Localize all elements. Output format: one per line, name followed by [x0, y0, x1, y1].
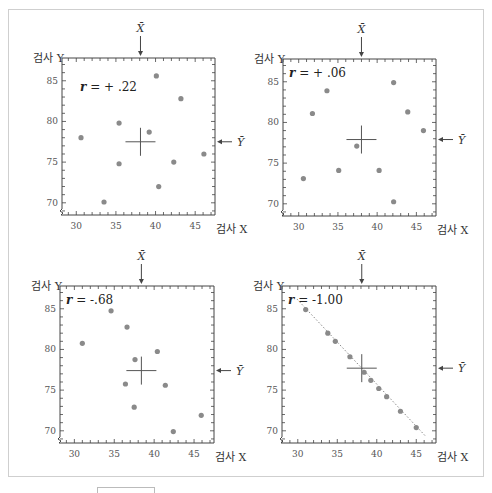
data-point [101, 199, 106, 204]
data-point [303, 307, 308, 312]
data-point [310, 111, 315, 116]
mean-x-label: X̄ [357, 250, 367, 263]
data-point [405, 109, 410, 114]
y-axis-title: 검사 Y [253, 280, 284, 293]
data-point [108, 308, 113, 313]
y-tick-label: 80 [267, 344, 279, 354]
axes-frame [58, 286, 214, 443]
x-axis-title: 검사 X [216, 223, 247, 236]
y-axis-title: 검사 Y [33, 52, 64, 65]
y-axis-title: 검사 Y [31, 280, 62, 293]
y-tick-label: 85 [45, 304, 57, 314]
data-point [123, 381, 128, 386]
data-point [156, 184, 161, 189]
data-point [377, 168, 382, 173]
mean-x-label: X̄ [136, 22, 146, 35]
data-point [325, 331, 330, 336]
data-point [155, 349, 160, 354]
mean-x-label: X̄ [357, 23, 367, 36]
data-point [414, 425, 419, 430]
arrow-left-icon [216, 368, 221, 373]
x-tick-label: 45 [188, 449, 200, 459]
x-tick-label: 30 [292, 449, 304, 459]
data-point [132, 357, 137, 362]
data-point [116, 161, 121, 166]
data-point [178, 96, 183, 101]
data-point [171, 160, 176, 165]
x-tick-label: 40 [150, 221, 162, 231]
y-tick-label: 75 [267, 385, 279, 395]
correlation-label: r = -1.00 [288, 293, 343, 307]
mean-y-label: Ȳ [458, 362, 467, 375]
mean-y-label: Ȳ [458, 134, 467, 147]
arrow-down-icon [359, 279, 364, 284]
mean-y-label: Ȳ [236, 365, 245, 378]
axes-frame [281, 59, 436, 216]
mean-y-label: Ȳ [237, 136, 246, 149]
x-tick-label: 30 [293, 222, 305, 232]
x-axis-title: 검사 X [437, 451, 468, 464]
x-tick-label: 45 [411, 222, 423, 232]
y-tick-label: 75 [268, 158, 280, 168]
scatter-panel-1: 3035404570758085검사 Y검사 XX̄Ȳr = + .22 [33, 22, 247, 236]
data-point [336, 168, 341, 173]
data-point [124, 324, 129, 329]
data-point [199, 413, 204, 418]
data-point [333, 339, 338, 344]
data-point [116, 120, 121, 125]
data-point [354, 143, 359, 148]
data-point [398, 409, 403, 414]
data-point [80, 341, 85, 346]
data-point [368, 378, 373, 383]
data-point [147, 129, 152, 134]
y-tick-label: 70 [268, 199, 280, 209]
x-axis-title: 검사 X [437, 224, 468, 237]
correlation-label: r = + .22 [80, 80, 137, 94]
data-point [347, 354, 352, 359]
y-tick-label: 70 [45, 426, 57, 436]
x-tick-label: 35 [332, 449, 344, 459]
scatter-panel-4: 3035404570758085검사 Y검사 XX̄Ȳr = -1.00 [253, 250, 468, 464]
x-axis-title: 검사 X [215, 451, 246, 464]
x-tick-label: 30 [71, 221, 83, 231]
data-point [154, 73, 159, 78]
y-tick-label: 85 [268, 77, 280, 87]
x-tick-label: 40 [148, 449, 160, 459]
y-tick-label: 80 [268, 117, 280, 127]
data-point [362, 370, 367, 375]
data-point [201, 151, 206, 156]
arrow-down-icon [138, 51, 143, 56]
correlation-label: r = -.68 [66, 293, 113, 307]
x-tick-label: 40 [371, 449, 383, 459]
y-tick-label: 80 [47, 116, 59, 126]
data-point [324, 88, 329, 93]
y-tick-label: 85 [47, 76, 59, 86]
arrow-left-icon [438, 366, 443, 371]
arrow-left-icon [217, 139, 222, 144]
y-axis-title: 검사 Y [254, 53, 285, 66]
arrow-down-icon [139, 279, 144, 284]
y-tick-label: 80 [45, 344, 57, 354]
scatter-panel-3: 3035404570758085검사 Y검사 XX̄Ȳr = -.68 [31, 250, 246, 464]
scatter-panel-2: 3035404570758085검사 Y검사 XX̄Ȳr = + .06 [254, 23, 468, 237]
y-tick-label: 85 [267, 304, 279, 314]
y-tick-label: 70 [47, 198, 59, 208]
x-tick-label: 35 [109, 449, 121, 459]
x-tick-label: 45 [189, 221, 201, 231]
data-point [376, 386, 381, 391]
data-point [78, 135, 83, 140]
mean-x-label: X̄ [136, 250, 146, 263]
x-tick-label: 35 [110, 221, 122, 231]
arrow-left-icon [438, 137, 443, 142]
data-point [384, 394, 389, 399]
data-point [301, 176, 306, 181]
correlation-label: r = + .06 [289, 66, 346, 80]
data-point [132, 405, 137, 410]
y-tick-label: 75 [45, 385, 57, 395]
x-tick-label: 45 [411, 449, 423, 459]
x-tick-label: 30 [69, 449, 81, 459]
y-tick-label: 70 [267, 426, 279, 436]
data-point [163, 383, 168, 388]
data-point [391, 80, 396, 85]
data-point [171, 429, 176, 434]
